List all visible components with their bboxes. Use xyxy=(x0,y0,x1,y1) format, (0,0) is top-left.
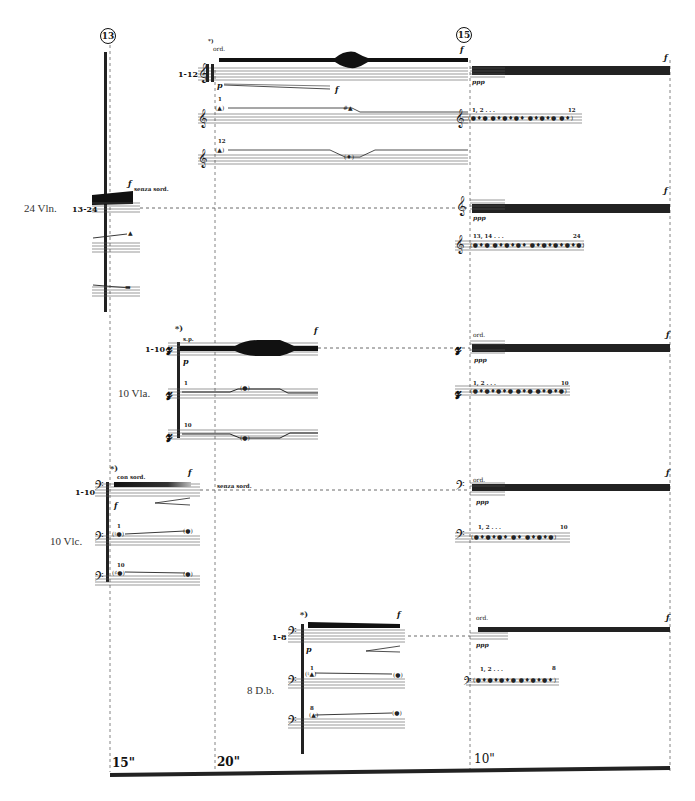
footnote-mark-cellos: *) xyxy=(110,463,118,473)
note-icon: (♯●) xyxy=(112,569,125,576)
instrument-label-basses: 8 D.b. xyxy=(247,684,274,696)
technique-senza-sord-violins: senza sord. xyxy=(134,186,169,192)
alto-clef-icon: 𝔃 xyxy=(166,385,173,401)
score-graphics xyxy=(0,0,695,801)
group-label-vla-1-10: 1-10 xyxy=(145,344,165,354)
dynamic-ppp: ppp xyxy=(472,78,485,85)
cluster-notes: (●♦● ●♦●♦●♦ ●♦●♦● ●♦) xyxy=(468,114,574,121)
note-icon: ▲ xyxy=(128,229,133,236)
rehearsal-mark-13: 13 xyxy=(100,28,116,44)
treble-clef-icon: 𝄞 xyxy=(198,63,209,81)
group-label-vln-1-12: 1-12 xyxy=(178,69,198,79)
instrument-label-violas: 10 Vla. xyxy=(118,387,150,399)
accent-f-icon: f xyxy=(397,609,400,619)
time-marker-15s: 15" xyxy=(112,756,135,770)
divisi-label-12: 12 xyxy=(218,138,226,144)
divisi-label-1: 1 xyxy=(117,523,121,529)
alto-clef-icon: 𝔃 xyxy=(455,384,462,400)
bass-clef-icon: 𝄢 xyxy=(287,626,297,641)
divisi-label-1: 1 xyxy=(184,380,188,386)
technique-con-sord: con sord. xyxy=(117,474,145,480)
treble-clef-icon: 𝄞 xyxy=(455,236,464,252)
cluster-notes: (●♦●♦●♦ ●♦ ●♦●♦●) xyxy=(471,533,557,540)
harmonic-note-icon: (▲) xyxy=(215,104,224,111)
cluster-label-start: 1, 2 . . . xyxy=(473,380,496,386)
cluster-label-start: 13, 14 . . . xyxy=(473,233,504,239)
technique-ord-violas: ord. xyxy=(473,331,485,338)
cluster-label-end: 12 xyxy=(568,107,576,113)
note-icon: ▬ xyxy=(125,283,131,290)
technique-ord-violins: ord. xyxy=(213,45,225,52)
technique-senza-sord-cellos: senza sord. xyxy=(217,483,252,489)
treble-clef-icon: 𝄞 xyxy=(455,110,464,126)
group-label-vlc-1-10: 1-10 xyxy=(75,487,95,497)
accent-f-icon: ƒ xyxy=(664,52,667,62)
cluster-label-end: 8 xyxy=(552,665,556,671)
cluster-label-end: 10 xyxy=(560,524,568,530)
sharp-note-icon: #▲ xyxy=(343,104,353,111)
treble-clef-icon: 𝄞 xyxy=(456,196,467,214)
dynamic-f: f xyxy=(114,500,117,510)
note-icon: (●) xyxy=(393,671,403,678)
dynamic-p: p xyxy=(306,644,312,654)
technique-ord-basses: ord. xyxy=(476,614,488,621)
footnote-mark-violas: *) xyxy=(175,323,183,333)
cluster-label-end: 24 xyxy=(573,233,581,239)
bass-clef-icon: 𝄢 xyxy=(94,531,104,546)
note-icon: (●) xyxy=(240,434,250,441)
time-grid-lines xyxy=(110,45,670,772)
cluster-label-start: 1, 2 . . . xyxy=(480,666,503,672)
natural-note-icon: (♦) xyxy=(344,153,354,160)
cluster-label-start: 1, 2 . . . xyxy=(478,524,501,530)
dynamic-ppp: ppp xyxy=(476,498,489,505)
note-icon: (▲) xyxy=(309,711,318,718)
footnote-mark-violins: *) xyxy=(208,38,213,44)
bass-clef-icon: 𝄢 xyxy=(287,675,297,690)
alto-clef-icon: 𝔃 xyxy=(166,427,173,443)
rehearsal-mark-label: 13 xyxy=(102,31,115,41)
accent-f-icon: ƒ xyxy=(664,185,667,195)
bass-clef-icon: 𝄢 xyxy=(455,480,465,495)
accent-f-icon: ƒ xyxy=(128,178,131,188)
note-icon: (●) xyxy=(183,570,193,577)
dynamic-ppp: ppp xyxy=(474,356,487,363)
instrument-label-violins: 24 Vln. xyxy=(24,202,57,214)
footnote-mark-basses: *) xyxy=(300,609,308,619)
cluster-notes: (●♦●♦●♦● ●♦●♦●♦) xyxy=(473,676,557,683)
note-icon: (●) xyxy=(392,709,402,716)
bass-clef-icon: 𝄢 xyxy=(455,529,465,544)
bass-clef-icon: 𝄢 xyxy=(94,571,104,586)
treble-clef-icon: 𝄞 xyxy=(198,110,207,126)
timeline-bar xyxy=(110,766,670,777)
divisi-label-1: 1 xyxy=(218,96,222,102)
cluster-label-start: 1, 2 . . . xyxy=(472,107,495,113)
accent-f-icon: f xyxy=(460,44,463,54)
accent-f-icon: ƒ xyxy=(666,329,669,339)
accent-f-icon: ƒ xyxy=(666,612,669,622)
note-icon: (♮●) xyxy=(112,530,124,537)
divisi-label-10: 10 xyxy=(117,562,125,568)
dynamic-ppp: ppp xyxy=(476,641,489,648)
accent-f-icon: f xyxy=(188,467,191,477)
accent-f-icon: ƒ xyxy=(666,467,669,477)
dynamic-p: p xyxy=(217,80,223,90)
treble-clef-icon: 𝄞 xyxy=(198,150,207,166)
technique-ord-cellos: ord. xyxy=(473,476,485,483)
group-label-db-1-8: 1-8 xyxy=(272,632,286,642)
cluster-label-end: 10 xyxy=(561,380,569,386)
alto-clef-icon: 𝔃 xyxy=(166,340,173,356)
cluster-notes: (●♦●♦●♦● ●♦● ●♦●♦●) xyxy=(470,387,567,394)
alto-clef-icon: 𝔃 xyxy=(455,340,462,356)
rehearsal-mark-15: 15 xyxy=(456,27,472,43)
divisi-label-10: 10 xyxy=(184,422,192,428)
rehearsal-mark-label: 15 xyxy=(458,30,471,40)
bass-clef-icon: 𝄢 xyxy=(94,480,104,495)
harmonic-note-icon: (▲) xyxy=(215,146,224,153)
bass-clef-icon: 𝄢 xyxy=(463,676,471,689)
note-icon: (●) xyxy=(240,384,250,391)
technique-sp-violas: s.p. xyxy=(183,336,194,342)
instrument-label-cellos: 10 Vlc. xyxy=(50,535,82,547)
dynamic-f: f xyxy=(335,84,338,94)
time-marker-10s: 10" xyxy=(474,752,495,766)
cluster-notes: (●♦● ●♦●♦●♦ ●♦●♦●♦●♦●) xyxy=(470,241,585,248)
